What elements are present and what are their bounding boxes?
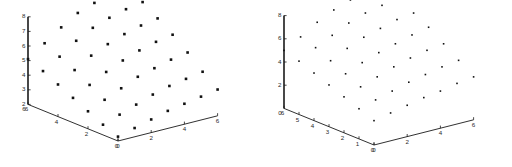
x-tick-label: 4 xyxy=(183,125,187,132)
data-point-marker xyxy=(200,95,203,98)
z-tick-label: 4 xyxy=(278,58,282,65)
data-point-marker xyxy=(107,43,110,46)
data-point-marker xyxy=(153,67,156,70)
data-point-marker xyxy=(155,41,158,44)
data-point-marker xyxy=(122,59,125,62)
x-tick-label: 2 xyxy=(149,134,153,141)
data-point-marker xyxy=(375,99,377,101)
y-tick-label: 0 xyxy=(371,146,375,153)
data-point-marker xyxy=(313,72,315,74)
x-axis-line xyxy=(374,120,474,145)
data-point-marker xyxy=(118,113,121,116)
data-point-marker xyxy=(378,52,380,54)
data-point-marker xyxy=(395,43,397,45)
data-point-marker xyxy=(73,69,76,72)
x-axis-ticks: 0246 xyxy=(372,117,476,153)
x-tick-label: 2 xyxy=(405,138,409,145)
data-point-marker xyxy=(441,66,443,68)
left-panel-svg: 0246642023456786 xyxy=(0,0,256,167)
data-point-marker xyxy=(396,19,398,21)
data-point-marker xyxy=(90,54,93,57)
data-point-marker xyxy=(391,90,393,92)
data-point-marker xyxy=(102,123,105,126)
y-tick-label: 3 xyxy=(326,128,330,135)
y-tick-label: 1 xyxy=(356,140,360,147)
data-point-marker xyxy=(87,110,90,113)
data-point-marker xyxy=(133,127,136,130)
data-point-marker xyxy=(216,88,219,91)
data-point-marker xyxy=(328,84,330,86)
x-tick-label: 6 xyxy=(472,121,476,128)
data-point-marker xyxy=(361,62,363,64)
data-point-marker xyxy=(42,70,45,73)
data-point-marker xyxy=(423,97,425,99)
x-tick-label: 6 xyxy=(216,117,220,124)
data-point-marker xyxy=(72,97,75,100)
data-point-marker xyxy=(57,83,60,86)
data-point-marker xyxy=(185,78,188,81)
data-point-marker xyxy=(473,76,475,78)
corner-labels: 6 xyxy=(22,105,26,112)
data-point-marker xyxy=(171,33,174,36)
x-axis-ticks: 0246 xyxy=(116,113,220,149)
z-tick-label: 8 xyxy=(22,12,26,19)
data-point-marker xyxy=(373,120,375,122)
y-tick-label: 4 xyxy=(311,122,315,129)
data-point-marker xyxy=(156,17,159,20)
data-point-marker xyxy=(381,5,383,7)
y-tick-label: 0 xyxy=(115,142,119,149)
data-point-marker xyxy=(358,108,360,110)
y-axis-start-label: 6 xyxy=(22,105,26,112)
data-point-marker xyxy=(123,33,126,36)
data-point-marker xyxy=(43,42,46,45)
z-tick-label: 6 xyxy=(22,42,26,49)
data-point-marker xyxy=(348,22,350,24)
y-tick-label: 2 xyxy=(85,130,89,137)
data-point-marker xyxy=(410,57,412,59)
data-point-marker xyxy=(103,98,106,101)
data-point-marker xyxy=(408,81,410,83)
data-point-marker xyxy=(183,102,186,105)
y-tick-label: 2 xyxy=(341,134,345,141)
data-point-marker xyxy=(138,49,141,52)
z-tick-label: 7 xyxy=(22,27,26,34)
data-point-marker xyxy=(150,118,153,121)
z-axis-ticks: 2345678 xyxy=(22,12,31,107)
data-point-marker xyxy=(186,51,189,54)
data-point-marker xyxy=(168,85,171,88)
data-point-marker xyxy=(283,50,285,52)
right-panel-svg: 0246012345624680 xyxy=(256,0,512,167)
data-point-marker xyxy=(108,16,111,19)
data-point-marker xyxy=(105,71,108,74)
data-point-marker xyxy=(343,96,345,98)
data-point-marker xyxy=(298,60,300,62)
data-point-marker xyxy=(425,74,427,76)
data-point-marker xyxy=(135,103,138,106)
data-point-marker xyxy=(458,60,460,62)
data-point-marker xyxy=(315,47,317,49)
data-point-marker xyxy=(27,58,30,61)
z-axis-ticks: 2468 xyxy=(278,11,287,88)
data-point-marker xyxy=(360,86,362,88)
data-point-marker xyxy=(137,75,140,78)
data-point-marker xyxy=(426,50,428,52)
data-point-marker xyxy=(93,2,96,5)
y-axis-start-label: 0 xyxy=(278,109,282,116)
scatter3d-plot-left: 0246642023456786 xyxy=(0,0,256,167)
data-point-marker xyxy=(440,90,442,92)
data-point-marker xyxy=(350,0,352,1)
x-axis-line xyxy=(118,116,218,141)
data-point-marker xyxy=(140,24,143,27)
data-point-marker xyxy=(411,34,413,36)
data-point-marker xyxy=(406,104,408,106)
data-point-marker xyxy=(390,112,392,114)
data-point-marker xyxy=(345,73,347,75)
data-point-marker xyxy=(380,28,382,30)
data-points-group xyxy=(283,0,474,121)
data-point-marker xyxy=(300,36,302,38)
data-point-marker xyxy=(125,8,128,11)
z-tick-label: 2 xyxy=(278,81,282,88)
data-point-marker xyxy=(117,135,120,138)
data-point-marker xyxy=(456,83,458,85)
data-point-marker xyxy=(120,87,123,90)
